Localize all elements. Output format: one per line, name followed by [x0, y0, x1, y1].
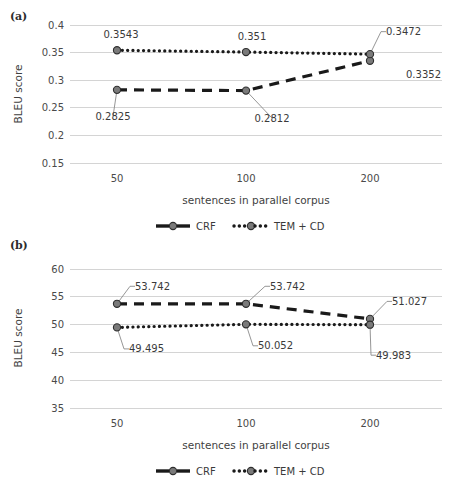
x-axis-tick-label: 50	[111, 173, 124, 184]
legend-item-label[interactable]: CRF	[196, 466, 216, 477]
label-leader-line	[370, 301, 392, 319]
data-point-label: 0.2812	[255, 113, 290, 124]
legend-swatch-marker	[169, 222, 176, 229]
data-point-label: 49.495	[129, 343, 164, 354]
chart-panel-a: (a) 0.40.350.30.250.20.15BLEU score50100…	[0, 0, 452, 240]
y-axis-tick-label: 60	[51, 264, 64, 275]
data-point-label: 53.742	[270, 281, 305, 292]
legend-item-label[interactable]: TEM + CD	[273, 221, 325, 232]
y-axis-tick-label: 0.4	[48, 20, 64, 31]
data-point-marker	[242, 300, 249, 307]
data-point-marker	[366, 321, 373, 328]
y-axis-tick-label: 0.35	[42, 47, 64, 58]
chart-a-canvas: 0.40.350.30.250.20.15BLEU score50100200s…	[0, 0, 452, 240]
label-leader-line	[246, 286, 270, 304]
x-axis-tick-label: 100	[236, 418, 255, 429]
y-axis-tick-label: 55	[51, 291, 64, 302]
data-point-label: 49.983	[376, 350, 411, 361]
data-point-marker	[113, 324, 120, 331]
data-point-marker	[242, 321, 249, 328]
x-axis-tick-label: 50	[111, 418, 124, 429]
data-point-marker	[113, 47, 120, 54]
data-point-marker	[113, 300, 120, 307]
data-point-label: 0.2825	[96, 111, 131, 122]
chart-panel-b: (b) 605550454035BLEU score50100200senten…	[0, 236, 452, 479]
y-axis-tick-label: 40	[51, 375, 64, 386]
chart-b-canvas: 605550454035BLEU score50100200sentences …	[0, 236, 452, 479]
y-axis-tick-label: 50	[51, 319, 64, 330]
data-point-label: 0.3543	[104, 29, 139, 40]
data-point-label: 50.052	[258, 340, 293, 351]
legend-item-label[interactable]: TEM + CD	[273, 466, 325, 477]
y-axis-tick-label: 0.3	[48, 75, 64, 86]
data-point-label: 0.351	[238, 31, 267, 42]
data-point-label: 53.742	[135, 281, 170, 292]
y-axis-tick-label: 0.15	[42, 158, 64, 169]
y-axis-title: BLEU score	[12, 309, 24, 368]
x-axis-tick-label: 200	[360, 418, 379, 429]
data-point-marker	[242, 48, 249, 55]
data-point-label: 51.027	[392, 296, 427, 307]
data-point-marker	[242, 87, 249, 94]
data-point-label: 0.3352	[406, 69, 441, 80]
legend-item-label[interactable]: CRF	[196, 221, 216, 232]
y-axis-title: BLEU score	[12, 65, 24, 124]
data-point-marker	[366, 51, 373, 58]
x-axis-title: sentences in parallel corpus	[182, 439, 329, 451]
x-axis-tick-label: 100	[236, 173, 255, 184]
legend-swatch-marker	[169, 467, 176, 474]
y-axis-tick-label: 35	[51, 403, 64, 414]
data-point-label: 0.3472	[386, 26, 421, 37]
series-line-dashed	[117, 61, 370, 91]
data-point-marker	[113, 86, 120, 93]
y-axis-tick-label: 45	[51, 347, 64, 358]
x-axis-title: sentences in parallel corpus	[182, 194, 329, 206]
y-axis-tick-label: 0.25	[42, 102, 64, 113]
y-axis-tick-label: 0.2	[48, 130, 64, 141]
x-axis-tick-label: 200	[360, 173, 379, 184]
